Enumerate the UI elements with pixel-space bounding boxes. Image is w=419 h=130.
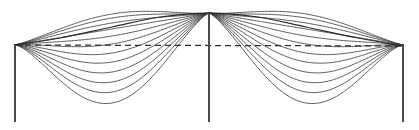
nested-curve-diagram [0,0,419,130]
diagram-canvas [0,0,419,130]
